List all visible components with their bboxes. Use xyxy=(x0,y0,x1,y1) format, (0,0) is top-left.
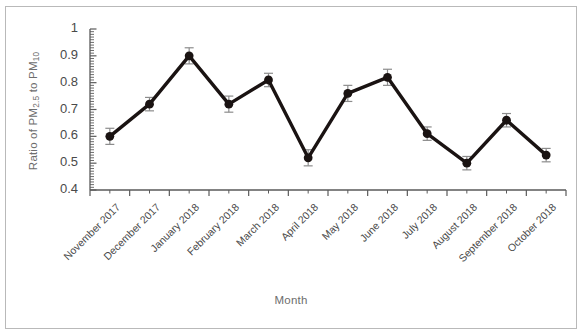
data-point-marker xyxy=(145,100,154,109)
data-point-marker xyxy=(542,151,551,160)
data-point-marker xyxy=(423,129,432,138)
data-point-marker xyxy=(343,89,352,98)
chart-figure: Ratio of PM2.5 to PM10 Month 0.40.50.60.… xyxy=(0,0,582,335)
data-point-marker xyxy=(502,116,511,125)
data-point-marker xyxy=(185,51,194,60)
data-point-marker xyxy=(224,100,233,109)
x-axis-ticks xyxy=(90,190,566,196)
line-chart-plot xyxy=(0,0,582,335)
data-point-marker xyxy=(304,153,313,162)
y-axis-tick-label: 0.4 xyxy=(38,181,78,196)
data-point-marker xyxy=(462,159,471,168)
x-axis-title: Month xyxy=(0,294,582,306)
y-axis-tick-label: 0.9 xyxy=(38,47,78,62)
y-axis-tick-label: 0.5 xyxy=(38,154,78,169)
data-point-markers xyxy=(105,51,550,167)
data-point-marker xyxy=(105,132,114,141)
y-axis-tick-label: 0.7 xyxy=(38,101,78,116)
y-axis-tick-label: 0.6 xyxy=(38,127,78,142)
y-axis-minor-ticks xyxy=(90,29,97,190)
error-bars xyxy=(105,48,550,170)
data-point-marker xyxy=(264,76,273,85)
data-point-marker xyxy=(383,73,392,82)
data-line-series xyxy=(110,56,546,163)
y-axis-tick-label: 0.8 xyxy=(38,74,78,89)
y-axis-tick-label: 1 xyxy=(38,20,78,35)
